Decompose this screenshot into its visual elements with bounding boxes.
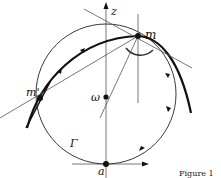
chord-m-mprime [0,36,138,118]
label-z: z [110,5,117,18]
label-gamma: Γ [69,137,78,150]
geometry-figure: z m m' ω Γ a Figure 1 [0,0,221,178]
label-m-prime: m' [26,86,39,99]
label-m: m [145,28,156,42]
label-a: a [98,165,105,178]
figure-caption: Figure 1 [179,169,214,178]
z-axis [104,2,109,178]
point-m [135,33,141,39]
circle-direction-arrows [139,73,171,151]
label-omega: ω [91,91,100,104]
point-omega [103,94,108,99]
